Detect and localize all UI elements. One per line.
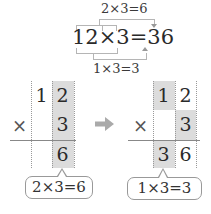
digit-ones-top: 2 xyxy=(52,81,73,110)
digit-result-ones: 6 xyxy=(52,140,73,169)
times-sign: × xyxy=(12,116,27,136)
lower-arrowhead-icon xyxy=(142,47,148,51)
digit-result-ones: 6 xyxy=(175,140,196,169)
callout-tens-product: 1×3=3 xyxy=(127,177,202,200)
digit-tens-top: 1 xyxy=(31,81,52,110)
upper-product-label: 2×3=6 xyxy=(101,2,148,16)
lower-product-label: 1×3=3 xyxy=(93,62,140,76)
main-equation: 12×3=36 xyxy=(72,26,174,48)
digit-result-tens: 3 xyxy=(153,140,174,169)
digit-multiplier: 3 xyxy=(52,110,73,139)
right-arrow-icon xyxy=(95,117,114,131)
grid-divider xyxy=(196,81,197,168)
times-sign: × xyxy=(133,116,148,136)
callout-ones-product: 2×3=6 xyxy=(25,176,93,199)
callout-pointer-fill xyxy=(159,170,167,178)
grid-divider xyxy=(74,81,75,168)
digit-ones-top: 2 xyxy=(175,81,196,110)
lower-bracket-connector xyxy=(93,53,147,60)
callout-pointer-fill xyxy=(58,170,66,177)
digit-multiplier: 3 xyxy=(175,110,196,139)
digit-tens-top: 1 xyxy=(153,81,174,110)
